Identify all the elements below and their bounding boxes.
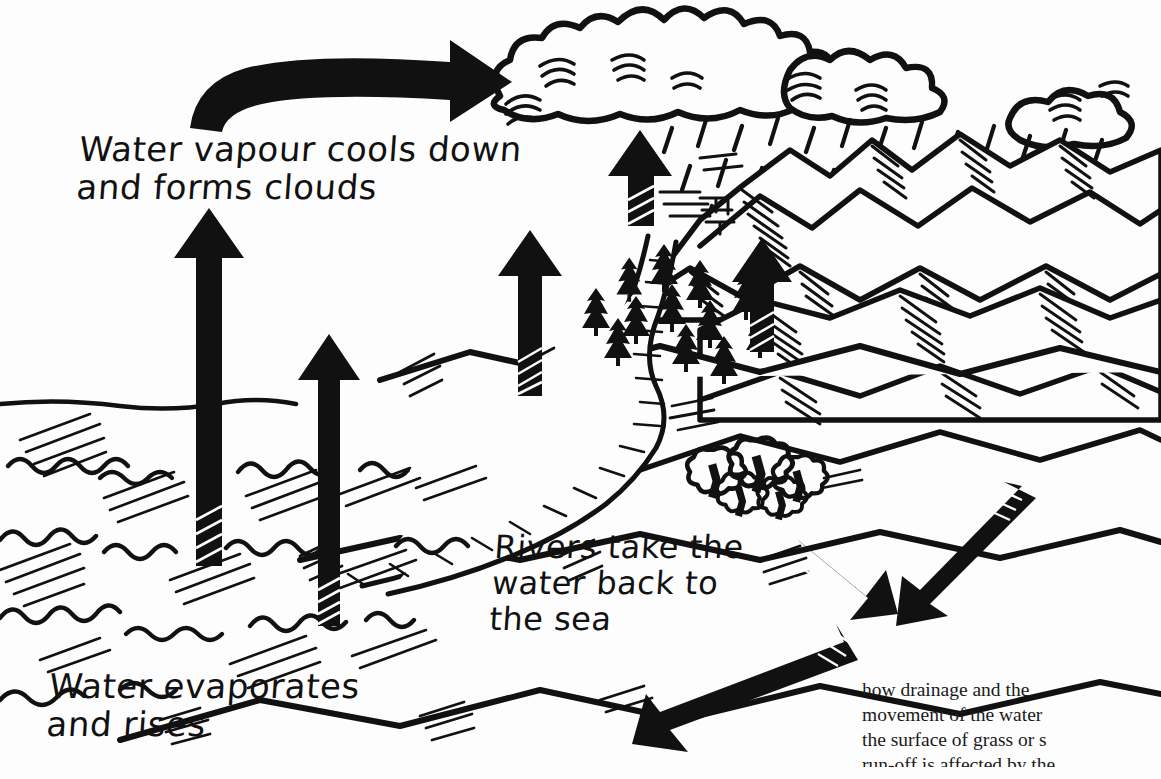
caption-line-3: the surface of grass or s — [862, 728, 1161, 753]
caption-line-4: run-off is affected by the — [862, 753, 1161, 767]
label-rivers: Rivers take the water back to the sea — [488, 530, 745, 637]
water-cycle-artwork — [0, 0, 1161, 779]
label-water-vapour: Water vapour cools down and forms clouds — [75, 130, 523, 206]
water-cycle-figure: Water vapour cools down and forms clouds… — [0, 0, 1161, 779]
caption-line-2: movement of the water — [862, 703, 1161, 728]
body-text-caption: how drainage and the movement of the wat… — [862, 678, 1161, 767]
label-evaporation: Water evaporates and rises — [45, 667, 361, 743]
caption-line-1: how drainage and the — [862, 678, 1161, 703]
